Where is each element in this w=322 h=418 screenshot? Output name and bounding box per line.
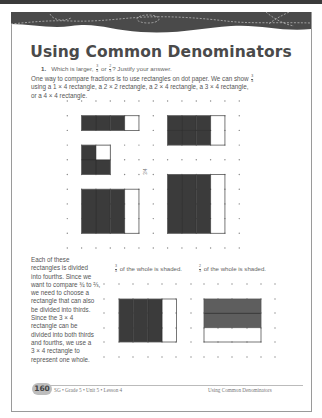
bottom-dot-grid (0, 0, 322, 418)
footer-course-info: SG • Grade 5 • Unit 5 • Lesson 4 (54, 387, 122, 393)
page-number-badge: 160 (32, 383, 52, 395)
footer-rule (46, 385, 303, 386)
page-footer: 160 SG • Grade 5 • Unit 5 • Lesson 4 Usi… (32, 383, 272, 399)
footer-lesson-title: Using Common Denominators (208, 387, 272, 393)
